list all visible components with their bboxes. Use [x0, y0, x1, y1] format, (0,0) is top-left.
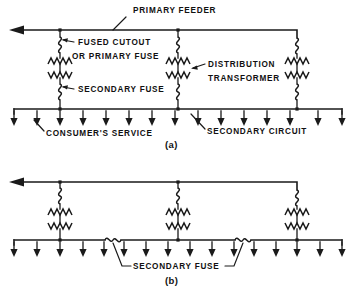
- transformer-winding-upper-b-1: [48, 209, 72, 215]
- consumer-service-drop: [338, 111, 345, 126]
- primary-feeder-arrow-a: [9, 26, 24, 35]
- label-secondary-circuit: SECONDARY CIRCUIT: [207, 127, 307, 136]
- transformer-winding-lower-a-1: [48, 72, 72, 78]
- caption-panel-a: (a): [165, 139, 178, 150]
- secondary-fuse-a-3: [296, 84, 299, 100]
- fused-cutout-a-1: [59, 37, 62, 53]
- consumer-service-drops-b: [10, 242, 345, 257]
- consumer-service-drop: [120, 242, 127, 257]
- fused-cutout-a-2: [177, 37, 180, 53]
- transformer-bank-b-3: [285, 190, 309, 240]
- consumer-service-drop: [272, 242, 279, 257]
- transformer-winding-lower-b-2: [166, 223, 190, 229]
- leader-arrow-distribution-transformer-a: [191, 65, 198, 69]
- consumer-service-drop: [33, 242, 40, 257]
- transformer-winding-upper-b-3: [285, 209, 309, 215]
- distribution-system-figure: PRIMARY FEEDER FUSED CUTOUT OR PRIMARY F…: [0, 0, 356, 289]
- panel-b: [9, 178, 346, 267]
- secondary-fuse-a-1: [59, 84, 62, 100]
- transformer-winding-lower-a-3: [285, 72, 309, 78]
- transformer-winding-lower-b-3: [285, 223, 309, 229]
- feeder-node-b-2: [176, 180, 179, 183]
- consumer-service-drop: [79, 111, 86, 126]
- consumer-service-drop: [125, 111, 132, 126]
- secondary-fuse-b-2: [235, 238, 251, 242]
- fused-cutout-b-3: [296, 190, 299, 206]
- label-distribution-transformer-line2: TRANSFORMER: [208, 74, 280, 83]
- consumer-service-drop: [142, 242, 149, 257]
- circuit-diagram-svg: PRIMARY FEEDER FUSED CUTOUT OR PRIMARY F…: [0, 0, 356, 289]
- consumer-service-drop: [208, 242, 215, 257]
- label-primary-feeder: PRIMARY FEEDER: [133, 6, 216, 15]
- transformer-winding-lower-a-2: [166, 72, 190, 78]
- consumer-service-drop: [338, 242, 345, 257]
- transformer-winding-upper-a-3: [285, 58, 309, 64]
- bus-node-a-2: [176, 107, 179, 110]
- consumer-service-drop: [250, 242, 257, 257]
- consumer-service-drop: [164, 242, 171, 257]
- panel-a: [9, 17, 346, 131]
- consumer-service-drop: [56, 111, 63, 126]
- consumer-service-drop: [240, 111, 247, 126]
- consumer-service-drop: [102, 111, 109, 126]
- feeder-node-a-2: [176, 28, 179, 31]
- consumer-service-drop: [56, 242, 63, 257]
- label-consumers-service: CONSUMER'S SERVICE: [46, 129, 153, 138]
- consumer-service-drop: [314, 111, 321, 126]
- consumer-service-drop: [171, 111, 178, 126]
- bus-node-a-3: [295, 107, 298, 110]
- transformer-bank-a-3: [285, 38, 309, 109]
- label-fused-cutout-line2: OR PRIMARY FUSE: [72, 52, 159, 61]
- consumer-service-drop: [148, 111, 155, 126]
- label-fused-cutout-line1: FUSED CUTOUT: [78, 38, 151, 47]
- feeder-node-b-1: [58, 180, 61, 183]
- transformer-winding-lower-b-1: [48, 223, 72, 229]
- primary-feeder-arrow-b: [9, 178, 24, 187]
- consumer-service-drop: [230, 242, 237, 257]
- consumer-service-drop: [217, 111, 224, 126]
- transformer-bank-b-2: [166, 182, 190, 240]
- bus-node-b-1: [58, 238, 61, 241]
- consumer-service-drop: [100, 242, 107, 257]
- transformer-bank-b-1: [48, 182, 72, 240]
- fused-cutout-b-1: [59, 188, 62, 204]
- consumer-service-drop: [186, 242, 193, 257]
- consumer-service-drop: [79, 242, 86, 257]
- consumer-service-drop: [263, 111, 270, 126]
- secondary-fuse-b-1: [105, 238, 121, 242]
- label-secondary-fuse-b: SECONDARY FUSE: [133, 262, 219, 271]
- bus-node-b-2: [176, 238, 179, 241]
- consumer-service-drop: [293, 242, 300, 257]
- leader-consumers-service-a: [34, 120, 44, 131]
- label-distribution-transformer-line1: DISTRIBUTION: [208, 60, 275, 69]
- transformer-winding-upper-b-2: [166, 209, 190, 215]
- consumer-service-drop: [286, 111, 293, 126]
- consumer-service-drops-a: [10, 111, 345, 126]
- bus-node-a-1: [58, 107, 61, 110]
- transformer-bank-a-2: [166, 30, 190, 109]
- transformer-bank-a-1: [48, 30, 72, 109]
- caption-panel-b: (b): [165, 275, 178, 286]
- leader-secondary-fuse-b-left: [113, 243, 131, 266]
- consumer-service-drop: [316, 242, 323, 257]
- secondary-fuse-a-2: [177, 84, 180, 100]
- label-secondary-fuse-a: SECONDARY FUSE: [78, 85, 164, 94]
- consumer-service-drop: [10, 111, 17, 126]
- feeder-node-a-1: [58, 28, 61, 31]
- fused-cutout-a-3: [296, 38, 299, 54]
- leader-primary-feeder-a: [113, 17, 126, 30]
- consumer-service-drop: [10, 242, 17, 257]
- bus-node-b-3: [295, 238, 298, 241]
- transformer-winding-upper-a-1: [48, 58, 72, 64]
- fused-cutout-b-2: [177, 188, 180, 204]
- transformer-winding-upper-a-2: [166, 58, 190, 64]
